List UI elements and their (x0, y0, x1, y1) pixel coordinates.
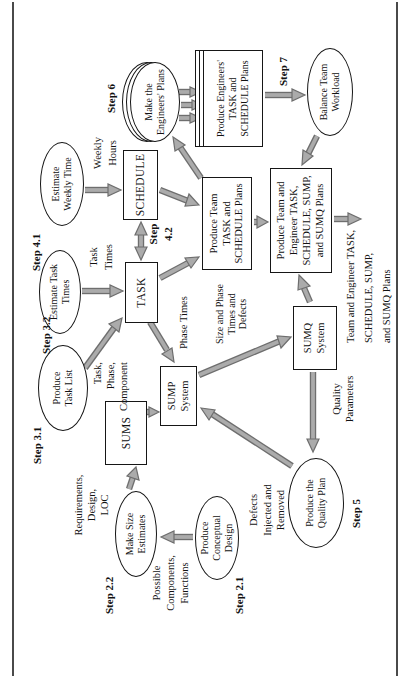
weekly-hours-label: Weekly Hours (90, 133, 120, 173)
sump-system-box: SUMP System (160, 366, 197, 426)
step-6-label: Step 6 (104, 84, 119, 113)
task-times-label: Task Times (86, 235, 116, 279)
step-3-1-label: Step 3.1 (30, 427, 45, 464)
ellipse-make-engineers-plans: Make the Engineers' Plans (130, 62, 180, 142)
sumq-system-box: SUMQ System (293, 306, 337, 370)
quality-parameters-label: Quality Parameters (330, 363, 356, 435)
arrow-quality-plan-to-sump (201, 408, 292, 466)
arrow-conceptual-to-size-estimates (161, 531, 193, 543)
arrow-size-estimates-to-sums (127, 467, 139, 489)
arrow-sumq-to-team-engineer-plans (298, 275, 310, 302)
arrow-balance-to-team-engineer-plans (302, 136, 317, 165)
ellipse-balance-team-workload: Balance Team Workload (307, 48, 353, 136)
step-2-2-label: Step 2.2 (102, 577, 117, 614)
top-rule (12, 2, 14, 676)
produce-team-engineer-plans-box: Produce Team and Engineer TASK, SCHEDULE… (270, 168, 332, 273)
arrow-schedule-to-team-plans (160, 190, 199, 206)
screenshot-root: Produce Conceptual Design Make Size Esti… (0, 0, 405, 678)
defects-injected-removed-label: Defects Injected and Removed (247, 474, 288, 546)
step-7-label: Step 7 (276, 57, 291, 86)
step-4-2-label: Step 4.2 (146, 217, 176, 251)
arrow-task-to-sump (150, 322, 174, 362)
arrow-weekly-time-to-schedule (85, 184, 121, 196)
step-2-1-label: Step 2.1 (232, 577, 247, 614)
arrow-sumq-to-quality-plan (307, 372, 319, 452)
bottom-rule (396, 2, 398, 676)
possible-components-label: Possible Components, Functions (150, 548, 192, 618)
produce-team-plans-box: Produce Team TASK and SCHEDULE Plans (202, 177, 252, 270)
planning-process-diagram: Produce Conceptual Design Make Size Esti… (0, 0, 405, 678)
requirements-design-loc-label: Requirements, Design, LOC (72, 462, 111, 548)
ellipse-produce-task-list: Produce Task List (38, 345, 88, 431)
schedule-box: SCHEDULE (123, 150, 158, 220)
size-phase-times-defects-label: Size and Phase Times and Defects (214, 276, 249, 352)
arrow-task-list-to-task (85, 318, 122, 368)
arrow-engineer-plans-to-balance (265, 89, 305, 101)
ellipse-estimate-weekly-time: Estimate Weekly Time (40, 142, 84, 226)
ellipse-produce-conceptual-design: Produce Conceptual Design (195, 496, 239, 580)
arrow-sums-to-sump (147, 407, 159, 417)
step-3-2-label: Step 3.2 (39, 317, 54, 354)
arrow-task-to-team-plans (160, 257, 199, 278)
arrow-team-plans-to-team-engineer-plans (254, 216, 268, 228)
phase-times-label: Phase Times (177, 293, 190, 349)
step-5-label: Step 5 (349, 499, 364, 528)
task-box: TASK (125, 262, 158, 323)
task-phase-component-label: Task, Phase, Component (91, 362, 130, 428)
arrow-task-times-to-task (82, 285, 123, 297)
step-4-1-label: Step 4.1 (29, 234, 44, 271)
produce-engineers-plans-box: Produce Engineers' TASK and SCHEDULE Pla… (203, 50, 263, 147)
ellipse-produce-quality-plan: Produce the Quality Plan (288, 458, 344, 548)
output-plans-caption: Team and Engineer TASK, SCHEDULE, SUMP, … (342, 213, 396, 343)
